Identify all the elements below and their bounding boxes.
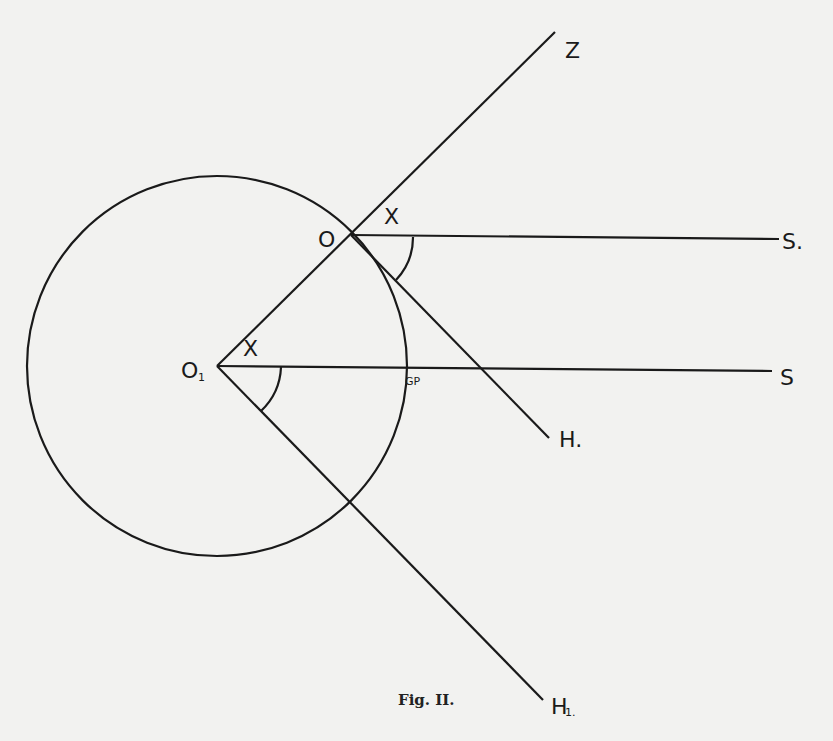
label-s-top: S. <box>782 229 803 254</box>
label-h: H. <box>559 427 582 452</box>
label-s-bottom: S <box>780 365 794 390</box>
ray-s-bottom <box>217 366 772 371</box>
zenith-line <box>217 32 555 366</box>
horizon-h <box>351 235 549 438</box>
label-o1-sub: 1 <box>198 371 205 384</box>
label-z: Z <box>565 38 580 63</box>
label-x-top: X <box>384 204 399 229</box>
label-gp: GP <box>405 375 421 388</box>
label-x-bottom: X <box>243 336 258 361</box>
angle-arc-top <box>396 237 413 280</box>
figure-caption: Fig. II. <box>398 691 455 709</box>
figure-diagram: Z O X S. O 1 X GP S H. H 1. Fig. II. <box>0 0 833 741</box>
ray-s-top <box>351 235 779 239</box>
label-h1-sub: 1. <box>565 706 576 719</box>
angle-arc-bottom <box>261 367 281 411</box>
label-o1: O <box>181 358 198 383</box>
horizon-h1 <box>217 366 543 700</box>
label-o: O <box>318 227 335 252</box>
